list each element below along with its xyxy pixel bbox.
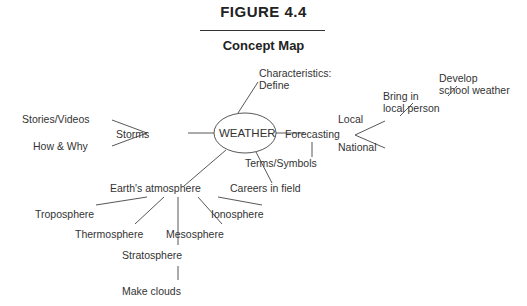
node-weather: WEATHER	[219, 127, 276, 139]
node-thermosphere: Thermosphere	[75, 228, 143, 240]
node-troposphere: Troposphere	[35, 208, 94, 220]
node-define: Define	[259, 79, 289, 91]
connector-lines	[0, 0, 527, 306]
node-make-clouds: Make clouds	[122, 285, 181, 297]
node-local-person: local person	[383, 102, 440, 114]
node-ionosphere: Ionosphere	[211, 208, 264, 220]
node-terms-symbols: Terms/Symbols	[245, 157, 317, 169]
node-how-why: How & Why	[33, 140, 88, 152]
node-stratosphere: Stratosphere	[122, 249, 182, 261]
node-earths-atmosphere: Earth's atmosphere	[110, 182, 201, 194]
node-national: National	[338, 141, 377, 153]
node-characteristics: Characteristics:	[259, 67, 331, 79]
node-forecasting: Forecasting	[285, 128, 340, 140]
node-school-weather: school weather	[439, 84, 510, 96]
node-stories-videos: Stories/Videos	[22, 113, 90, 125]
node-local: Local	[338, 113, 363, 125]
node-storms: Storms	[116, 128, 149, 140]
node-develop: Develop	[439, 72, 478, 84]
node-bring-in: Bring in	[383, 90, 419, 102]
node-careers: Careers in field	[230, 182, 301, 194]
node-mesosphere: Mesosphere	[166, 228, 224, 240]
